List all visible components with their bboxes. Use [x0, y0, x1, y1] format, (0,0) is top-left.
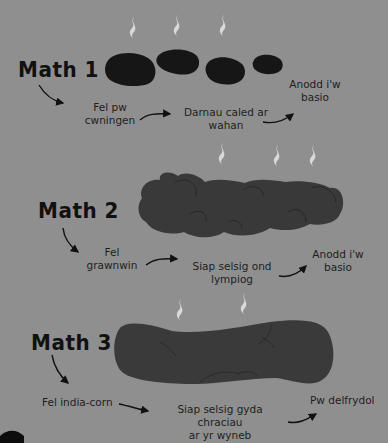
type1-title: Math 1	[18, 58, 99, 82]
arrow-icon	[63, 228, 78, 252]
arrow-icon	[52, 355, 68, 383]
type3-title: Math 3	[31, 331, 112, 355]
steam-icons-type3	[177, 292, 247, 321]
arrow-icon	[146, 259, 177, 265]
type3-description: Fel india-corn	[42, 396, 122, 409]
steam-icon	[130, 16, 136, 39]
arrow-icon	[39, 85, 63, 103]
stool-illustration-type2	[139, 173, 344, 238]
type3-result: Pw delfrydol	[310, 394, 388, 407]
arrow-icon	[288, 414, 316, 423]
steam-icons-type2	[219, 142, 316, 167]
stool-illustration-type3	[114, 320, 333, 384]
type1-description: Fel pw cwningen	[70, 101, 150, 127]
type2-description: Fel grawnwin	[82, 246, 142, 272]
steam-icon	[177, 298, 183, 321]
steam-icon	[220, 14, 226, 37]
type2-shape: Siap selsig ond lympiog	[182, 260, 282, 286]
steam-icon	[219, 142, 225, 165]
steam-icon	[174, 14, 180, 37]
steam-icon	[241, 292, 247, 315]
type1-result: Anodd i'w basio	[280, 78, 350, 104]
type2-title: Math 2	[38, 199, 119, 223]
steam-icon	[310, 144, 316, 167]
steam-icon	[274, 144, 280, 167]
type3-shape: Siap selsig gyda chraciau ar yr wyneb	[155, 403, 285, 442]
corner-decoration	[0, 431, 24, 443]
arrow-icon	[279, 266, 306, 277]
steam-icons-type1	[130, 14, 226, 39]
stool-illustration-type1	[105, 49, 283, 86]
type1-shape: Darnau caled ar wahan	[176, 106, 276, 132]
type2-result: Anodd i'w basio	[303, 248, 373, 274]
arrow-icon	[119, 404, 148, 411]
